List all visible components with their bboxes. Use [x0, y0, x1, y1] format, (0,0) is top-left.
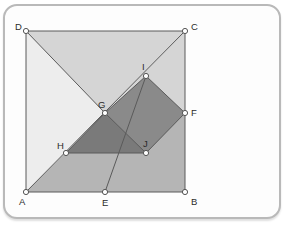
figure-canvas: A B C D E F G H I J [0, 0, 290, 235]
point-E[interactable] [102, 189, 107, 194]
label-J: J [143, 138, 148, 149]
point-F[interactable] [182, 110, 187, 115]
label-I: I [142, 61, 145, 72]
label-B: B [191, 196, 197, 207]
label-E: E [102, 197, 108, 208]
point-C[interactable] [182, 28, 187, 33]
label-G: G [98, 99, 105, 110]
label-A: A [19, 196, 26, 207]
point-H[interactable] [63, 150, 68, 155]
point-G[interactable] [102, 110, 107, 115]
geometry-diagram: A B C D E F G H I J [0, 0, 290, 235]
point-A[interactable] [23, 189, 28, 194]
label-C: C [191, 21, 198, 32]
point-B[interactable] [182, 189, 187, 194]
label-D: D [15, 21, 22, 32]
label-H: H [57, 140, 64, 151]
label-F: F [191, 107, 197, 118]
point-D[interactable] [23, 28, 28, 33]
point-J[interactable] [143, 150, 148, 155]
point-I[interactable] [143, 73, 148, 78]
